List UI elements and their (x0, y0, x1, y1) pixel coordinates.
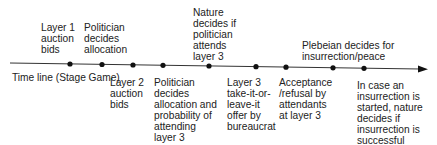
event-layer3-offer: Layer 3 take-it-or- leave-it offer by bu… (227, 77, 276, 132)
event-layer2-auction: Layer 2 auction bids (110, 77, 144, 110)
timeline-dot (206, 63, 211, 68)
event-politician-allocation: Politician decides allocation (84, 22, 127, 55)
timeline-dot (130, 62, 135, 67)
timeline-dot (99, 62, 104, 67)
timeline-axis-label: Time line (Stage Game) (12, 72, 120, 83)
timeline-dot (253, 64, 258, 69)
arrow-head-icon (418, 66, 428, 73)
timeline-dot (361, 66, 366, 71)
event-politician-allocation-probability: Politician decides allocation and probab… (154, 77, 217, 143)
timeline-dot (330, 65, 335, 70)
event-plebeian-decision: Plebeian decides for insurrection/peace (302, 40, 394, 62)
event-insurrection-success: In case an insurrection is started, natu… (357, 80, 423, 145)
event-nature-attendance: Nature decides if politician attends lay… (193, 7, 236, 62)
timeline-dot (283, 65, 288, 70)
event-layer1-auction: Layer 1 auction bids (41, 22, 75, 55)
event-acceptance-refusal: Acceptance /refusal by attendants at lay… (279, 77, 332, 121)
timeline-dot (67, 61, 72, 66)
timeline-dot (160, 63, 165, 68)
